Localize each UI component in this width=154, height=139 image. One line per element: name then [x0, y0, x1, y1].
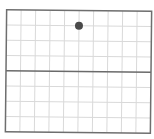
grid-group: [5, 10, 151, 134]
coordinate-grid: [0, 0, 154, 139]
horizontal-axis-line: [6, 71, 151, 73]
plotted-point: [75, 22, 83, 30]
grid-diagram: [0, 0, 154, 139]
plotted-points: [75, 22, 83, 30]
